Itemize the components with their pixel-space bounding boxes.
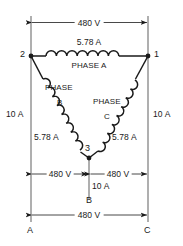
label-terminal-c: C	[144, 226, 151, 235]
coil-phase-a	[46, 51, 119, 56]
junction-dot-node-3	[87, 156, 92, 161]
junction-dot-node-1	[146, 54, 151, 59]
lead-phase-b-top	[31, 56, 43, 79]
winding-phase-b-group	[31, 56, 89, 158]
label-line-a-current: 10 A	[6, 110, 23, 119]
label-phase-c-line1: PHASE	[93, 98, 121, 106]
label-terminal-b: B	[86, 196, 92, 205]
label-node-2: 2	[20, 50, 25, 59]
label-phase-b-current: 5.78 A	[34, 133, 59, 142]
diagram-canvas: 480 V 5.78 A PHASE A 2 1 3 PHASE B PHASE…	[0, 0, 183, 246]
label-phase-c-line2: C	[104, 113, 110, 121]
label-phase-a: PHASE A	[72, 62, 107, 70]
label-bottom-right-voltage: 480 V	[105, 170, 132, 179]
label-bottom-total-voltage: 480 V	[75, 211, 104, 220]
label-node-3: 3	[85, 144, 90, 153]
label-line-b-current: 10 A	[92, 182, 109, 191]
lead-phase-c-top	[136, 56, 149, 79]
label-phase-b-line2: B	[57, 99, 62, 107]
label-node-1: 1	[154, 50, 159, 59]
junction-dot-node-2	[29, 54, 34, 59]
label-top-voltage: 480 V	[75, 19, 104, 28]
label-phase-a-current: 5.78 A	[77, 38, 102, 47]
label-phase-b-line1: PHASE	[45, 84, 73, 92]
label-terminal-a: A	[27, 226, 33, 235]
winding-phase-c-group	[89, 56, 148, 158]
label-bottom-left-voltage: 480 V	[47, 170, 74, 179]
label-phase-c-current: 5.78 A	[112, 133, 137, 142]
label-line-c-current: 10 A	[153, 110, 170, 119]
